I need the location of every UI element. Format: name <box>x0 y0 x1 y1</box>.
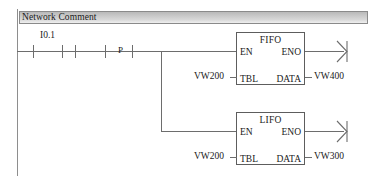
contact-2-bar-right[interactable] <box>105 45 106 58</box>
fifo-block-title: FIFO <box>237 35 304 45</box>
lifo-block[interactable]: LIFO EN ENO TBL DATA <box>236 112 305 165</box>
left-power-rail <box>17 9 18 176</box>
fifo-pin-tbl: TBL <box>240 75 258 85</box>
ladder-diagram-canvas: Network Comment I0.1 P FIFO EN ENO TBL D… <box>0 0 376 184</box>
fifo-pin-data: DATA <box>276 75 301 85</box>
contact-2-bar-left[interactable] <box>75 45 76 58</box>
contact-3-label: P <box>118 46 123 55</box>
fifo-data-wire <box>305 77 312 78</box>
lifo-pin-en: EN <box>240 128 253 138</box>
network-comment-text[interactable]: Network Comment <box>22 11 97 24</box>
lifo-data-operand[interactable]: VW300 <box>314 152 344 162</box>
rung-wire-main <box>17 51 162 52</box>
branch-vertical-wire <box>161 51 162 132</box>
lifo-pin-data: DATA <box>276 155 301 165</box>
lifo-pin-tbl: TBL <box>240 155 258 165</box>
lifo-pin-eno: ENO <box>281 128 301 138</box>
lifo-block-title: LIFO <box>237 115 304 125</box>
lifo-tbl-wire <box>230 157 237 158</box>
fifo-pin-eno: ENO <box>281 48 301 58</box>
fifo-pin-en: EN <box>240 48 253 58</box>
lifo-tbl-operand[interactable]: VW200 <box>194 152 224 162</box>
contact-1-label: I0.1 <box>40 31 55 41</box>
contact-3-bar-left[interactable] <box>132 45 133 58</box>
fifo-tbl-wire <box>230 77 237 78</box>
lifo-en-wire <box>161 131 237 132</box>
contact-1-bar-right[interactable] <box>62 45 63 58</box>
fifo-data-operand[interactable]: VW400 <box>314 72 344 82</box>
fifo-eno-arrow-icon <box>336 40 350 63</box>
fifo-tbl-operand[interactable]: VW200 <box>194 72 224 82</box>
fifo-en-wire <box>161 51 237 52</box>
lifo-eno-arrow-icon <box>336 120 350 143</box>
lifo-data-wire <box>305 157 312 158</box>
fifo-block[interactable]: FIFO EN ENO TBL DATA <box>236 32 305 85</box>
contact-1-bar-left[interactable] <box>33 45 34 58</box>
